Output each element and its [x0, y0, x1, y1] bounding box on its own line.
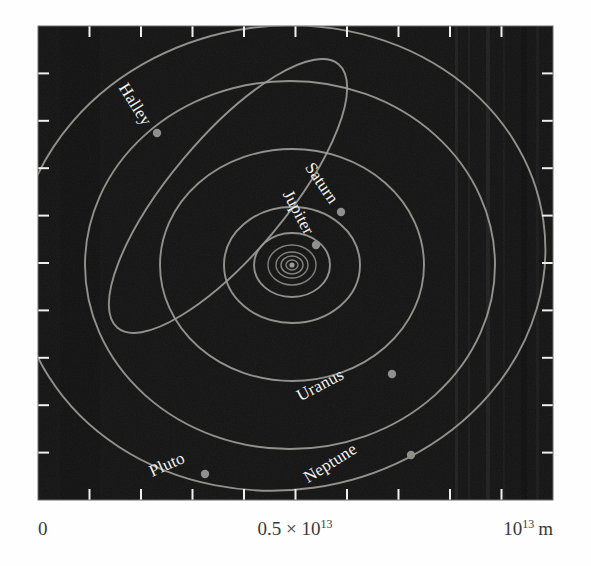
- marker-saturn: [337, 208, 345, 216]
- solar-system-figure: HalleySaturnJupiterUranusNeptunePluto 0 …: [0, 0, 591, 566]
- marker-uranus: [388, 370, 396, 378]
- marker-neptune: [407, 451, 415, 459]
- axis-label-origin: 0: [38, 518, 48, 539]
- sun-marker: [289, 262, 294, 267]
- marker-pluto: [201, 470, 209, 478]
- axis-label-maximum-exponent: 13: [522, 517, 534, 531]
- marker-halley: [153, 129, 161, 137]
- axis-label-unit: m: [538, 518, 553, 539]
- plot-grain-texture: [38, 26, 553, 500]
- plot-area: HalleySaturnJupiterUranusNeptunePluto: [0, 0, 576, 525]
- axis-label-maximum-mantissa: 10: [503, 518, 522, 539]
- marker-jupiter: [312, 241, 320, 249]
- solar-system-diagram: HalleySaturnJupiterUranusNeptunePluto 0 …: [0, 0, 591, 566]
- axis-label-midpoint-mantissa: 0.5 × 10: [258, 518, 321, 539]
- axis-label-midpoint-exponent: 13: [320, 517, 332, 531]
